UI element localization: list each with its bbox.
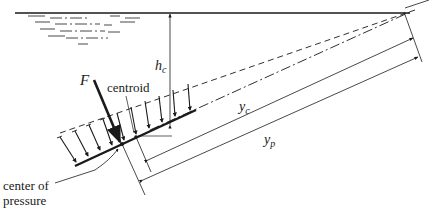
diagram-canvas: F centroid hc yc yp center of pressure bbox=[0, 0, 429, 212]
yp-label: yp bbox=[262, 132, 275, 149]
yc-extension-line bbox=[136, 137, 151, 172]
force-label: F bbox=[79, 72, 90, 88]
yc-label: yc bbox=[237, 99, 250, 116]
hc-label: hc bbox=[155, 58, 167, 75]
yp-extension-line bbox=[122, 144, 145, 195]
pressure-arrow-caps bbox=[57, 118, 105, 138]
water-surface-hatching bbox=[28, 16, 140, 44]
center-of-pressure-label-line2: pressure bbox=[3, 193, 47, 208]
yp-dimension-line bbox=[143, 57, 418, 180]
pressure-envelope-dashed bbox=[60, 10, 415, 133]
origin-perpendicular-line bbox=[404, 12, 422, 62]
centroid-label: centroid bbox=[107, 80, 150, 95]
center-of-pressure-label-line1: center of bbox=[3, 178, 50, 193]
reference-extension-line bbox=[405, 0, 429, 8]
